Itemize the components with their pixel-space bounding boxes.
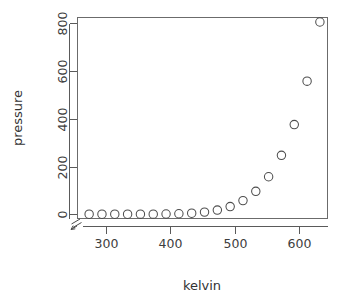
data-point bbox=[149, 210, 157, 218]
data-point bbox=[111, 210, 119, 218]
y-tick-label: 600 bbox=[55, 60, 70, 84]
y-tick-label: 400 bbox=[55, 108, 70, 132]
scatter-plot-canvas: 0200400600800 300400500600 pressure kelv… bbox=[0, 0, 339, 304]
data-point bbox=[85, 210, 93, 218]
x-tick-label: 600 bbox=[288, 236, 312, 251]
data-point bbox=[290, 120, 298, 128]
data-point-series bbox=[85, 18, 324, 219]
data-point bbox=[264, 173, 272, 181]
y-tick-label: 200 bbox=[55, 156, 70, 180]
y-axis-title: pressure bbox=[10, 90, 25, 146]
y-tick-labels: 0200400600800 bbox=[55, 12, 70, 219]
data-point bbox=[316, 18, 324, 26]
x-axis bbox=[83, 227, 328, 234]
axis-break-icon bbox=[71, 219, 82, 230]
y-tick-label: 800 bbox=[55, 12, 70, 36]
data-point bbox=[136, 210, 144, 218]
data-point bbox=[226, 202, 234, 210]
y-axis-ticks bbox=[70, 24, 77, 215]
data-point bbox=[239, 196, 247, 204]
plot-frame bbox=[78, 18, 328, 219]
x-axis-title: kelvin bbox=[183, 278, 221, 293]
data-point bbox=[277, 151, 285, 159]
x-tick-label: 500 bbox=[224, 236, 248, 251]
data-point bbox=[98, 210, 106, 218]
x-axis-ticks bbox=[107, 227, 300, 234]
data-point bbox=[123, 210, 131, 218]
x-tick-labels: 300400500600 bbox=[95, 236, 312, 251]
y-tick-label: 0 bbox=[55, 210, 70, 218]
data-point bbox=[188, 209, 196, 217]
x-tick-label: 300 bbox=[95, 236, 119, 251]
data-point bbox=[175, 210, 183, 218]
data-point bbox=[213, 206, 221, 214]
x-tick-label: 400 bbox=[159, 236, 183, 251]
data-point bbox=[162, 210, 170, 218]
data-point bbox=[303, 77, 311, 85]
data-point bbox=[200, 208, 208, 216]
plot-figure: 0200400600800 300400500600 pressure kelv… bbox=[0, 0, 339, 304]
y-axis bbox=[70, 24, 77, 219]
data-point bbox=[252, 187, 260, 195]
